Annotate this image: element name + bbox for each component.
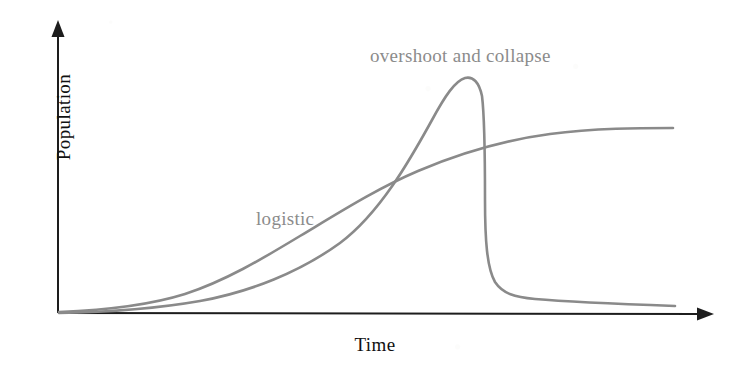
annotation-overshoot-and-collapse: overshoot and collapse xyxy=(370,45,551,67)
population-overshoot-chart: Population Time overshoot and collapse l… xyxy=(0,0,738,369)
y-axis-arrowhead-icon xyxy=(52,20,65,37)
chart-canvas xyxy=(0,0,738,369)
x-axis-line xyxy=(58,313,703,314)
y-axis-label: Population xyxy=(53,57,75,177)
x-axis-arrowhead-icon xyxy=(697,308,714,321)
annotation-logistic: logistic xyxy=(256,208,314,230)
x-axis-label: Time xyxy=(305,334,445,356)
